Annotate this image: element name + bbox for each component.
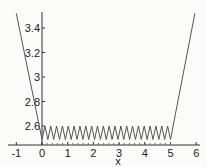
x-tick-label: 4 [142,147,148,159]
x-axis-label: x [115,155,121,167]
y-axis: 2.62.833.23.4 [25,12,45,145]
y-tick-label: 3.2 [25,47,40,59]
x-tick-label: 0 [39,147,45,159]
y-tick-label: 3 [34,71,40,83]
x-tick-label: 5 [167,147,173,159]
y-tick-label: 3.4 [25,22,40,34]
x-tick-label: 1 [65,147,71,159]
y-tick-label: 2.8 [25,96,40,108]
x-tick-label: 2 [90,147,96,159]
chart: -10123456 2.62.833.23.4 x [0,0,207,167]
x-tick-label: 6 [193,147,199,159]
y-tick-label: 2.6 [25,120,40,132]
data-line [16,13,195,139]
x-tick-label: -1 [11,147,21,159]
x-axis: -10123456 [8,142,200,159]
